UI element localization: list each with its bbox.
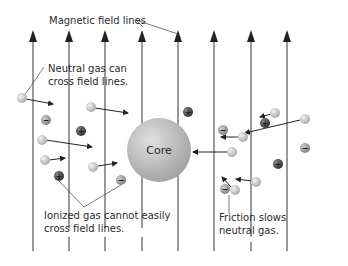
field-line-arrowheads [29, 30, 291, 42]
negative-ion: − [220, 184, 230, 194]
svg-text:−: − [43, 116, 50, 125]
positive-ion: + [273, 159, 283, 169]
svg-text:−: − [302, 144, 309, 153]
positive-ion: + [183, 107, 193, 117]
positive-ion: + [76, 126, 86, 136]
core-label: Core [146, 144, 172, 157]
neutral-particle [37, 135, 47, 145]
negative-ion: − [300, 143, 310, 153]
ionized-gas-label-line2: cross field lines. [44, 223, 124, 234]
neutral-particle [230, 185, 240, 195]
neutral-particle [40, 155, 50, 165]
negative-ion: − [218, 125, 228, 135]
positive-ion: + [54, 171, 64, 181]
arrowhead-icon [29, 30, 37, 42]
arrowhead-icon [283, 30, 291, 42]
core: Core [127, 118, 191, 182]
neutral-gas-label-line1: Neutral gas can [48, 63, 127, 74]
neutral-particle [227, 147, 237, 157]
svg-text:+: + [78, 127, 85, 136]
protostar-magnetic-field-diagram: Magnetic field lines Neutral gas can cro… [0, 0, 348, 266]
svg-text:+: + [56, 172, 63, 181]
negative-ion: − [41, 115, 51, 125]
field-lines-label: Magnetic field lines [49, 15, 146, 26]
svg-text:−: − [118, 176, 125, 185]
positive-ion: + [260, 118, 270, 128]
neutral-particle [300, 114, 310, 124]
neutral-particle [86, 102, 96, 112]
svg-text:−: − [220, 126, 227, 135]
neutral-particle [251, 177, 261, 187]
svg-text:+: + [185, 108, 192, 117]
arrow [49, 158, 65, 160]
neutral-particle [270, 108, 280, 118]
arrow [95, 108, 128, 113]
negative-ion: − [116, 175, 126, 185]
ionized-gas-label-line1: Ionized gas cannot easily [44, 210, 171, 221]
neutral-gas-pointer [24, 67, 44, 96]
arrow [245, 120, 300, 133]
arrowhead-icon [247, 30, 255, 42]
neutral-particle [88, 162, 98, 172]
svg-text:+: + [262, 119, 269, 128]
arrowhead-icon [101, 30, 109, 42]
arrowhead-icon [138, 30, 146, 42]
svg-text:−: − [222, 185, 229, 194]
arrowhead-icon [210, 30, 218, 42]
friction-label-line2: neutral gas. [219, 225, 279, 236]
neutral-particle [238, 132, 248, 142]
arrow [26, 99, 53, 104]
ionized-gas-pointer [59, 181, 121, 207]
arrow [98, 163, 117, 166]
arrow [236, 179, 252, 181]
arrowhead-icon [65, 30, 73, 42]
arrowhead-icon [174, 30, 182, 42]
neutral-particle [17, 93, 27, 103]
friction-label-line1: Friction slows [219, 212, 286, 223]
svg-text:+: + [275, 160, 282, 169]
neutral-gas-label-line2: cross field lines. [48, 76, 128, 87]
